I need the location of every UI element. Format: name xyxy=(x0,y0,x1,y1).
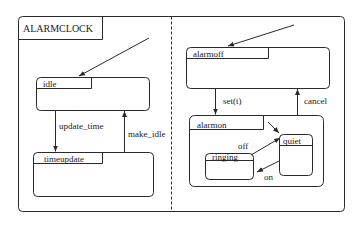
state-idle-label: idle xyxy=(43,79,57,89)
transition-off-label: off xyxy=(238,141,248,151)
transition-set-label: set(t) xyxy=(223,96,242,106)
transition-on-label: on xyxy=(264,172,274,182)
transition-update-time[interactable]: update_time xyxy=(56,111,104,152)
state-alarmoff-label: alarmoff xyxy=(193,49,224,59)
transition-update-time-label: update_time xyxy=(59,121,104,131)
right-region: alarmoff set(t) cancel alarmon quiet xyxy=(187,25,330,187)
state-ringing-label: ringing xyxy=(212,152,238,162)
state-quiet-label: quiet xyxy=(283,136,301,146)
left-region: idle update_time make_idle timeupdate xyxy=(34,38,166,197)
transition-cancel[interactable]: cancel xyxy=(298,89,328,116)
alarmclock-frame: ALARMCLOCK xyxy=(19,17,345,212)
state-quiet[interactable]: quiet xyxy=(280,135,313,176)
state-timeupdate-label: timeupdate xyxy=(44,154,84,164)
initial-transition-idle xyxy=(79,38,149,76)
transition-off[interactable]: off xyxy=(238,138,280,155)
state-alarmoff[interactable]: alarmoff xyxy=(187,48,330,89)
initial-transition-quiet xyxy=(268,122,279,133)
transition-make-idle[interactable]: make_idle xyxy=(125,111,166,153)
transition-make-idle-label: make_idle xyxy=(128,129,166,139)
initial-transition-alarmoff xyxy=(228,25,294,46)
state-alarmon-label: alarmon xyxy=(197,120,227,130)
state-timeupdate[interactable]: timeupdate xyxy=(34,153,154,197)
transition-on[interactable]: on xyxy=(257,161,279,182)
statechart-diagram: ALARMCLOCK idle update_time make_idle ti… xyxy=(0,0,364,225)
transition-set[interactable]: set(t) xyxy=(216,89,242,115)
state-ringing[interactable]: ringing xyxy=(206,152,254,180)
transition-cancel-label: cancel xyxy=(304,96,327,106)
state-idle[interactable]: idle xyxy=(37,78,150,111)
alarmclock-title: ALARMCLOCK xyxy=(23,23,94,34)
